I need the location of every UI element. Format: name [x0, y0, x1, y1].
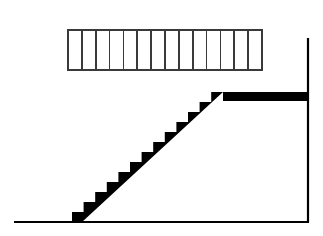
landing-slab: [223, 92, 309, 101]
top-landing-slab: [223, 92, 309, 101]
staircase-figure: [0, 0, 323, 236]
figure-canvas: [0, 0, 323, 236]
step-count-strip: [68, 30, 262, 70]
